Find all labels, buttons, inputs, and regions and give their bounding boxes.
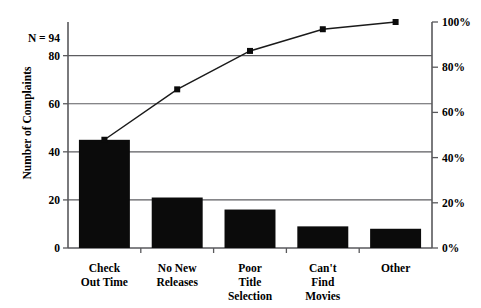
category-label-3-line-2: Movies [305, 290, 341, 302]
category-label-1-line-1: Releases [156, 276, 198, 288]
category-label-2-line-1: Title [239, 276, 262, 288]
category-label-3-line-1: Find [311, 276, 335, 288]
category-label-2-line-0: Poor [238, 262, 262, 274]
y-tick-label-left-80: 80 [49, 50, 61, 62]
y-axis-title: Number of Complaints [21, 66, 34, 179]
bar-2 [225, 210, 276, 248]
y-tick-label-right-0: 0% [442, 242, 459, 254]
y-tick-label-left-60: 60 [49, 98, 61, 110]
cumulative-marker-0 [101, 137, 107, 143]
bar-0 [79, 140, 130, 248]
y-tick-label-left-0: 0 [54, 242, 60, 254]
y-tick-label-left-20: 20 [49, 194, 61, 206]
chart-canvas: 0204060800%20%40%60%80%100%CheckOut Time… [0, 0, 481, 308]
category-label-0-line-0: Check [89, 262, 121, 274]
category-label-4-line-0: Other [381, 262, 410, 274]
sample-size-annotation: N = 94 [28, 32, 60, 44]
cumulative-marker-2 [247, 48, 253, 54]
cumulative-marker-4 [393, 19, 399, 25]
bar-1 [152, 198, 203, 248]
bar-4 [370, 229, 421, 248]
cumulative-marker-3 [320, 26, 326, 32]
y-tick-label-right-80: 80% [442, 61, 465, 73]
category-label-2-line-2: Selection [228, 290, 273, 302]
y-tick-label-right-60: 60% [442, 106, 465, 118]
bar-3 [297, 226, 348, 248]
y-tick-label-right-100: 100% [442, 16, 471, 28]
y-tick-label-right-20: 20% [442, 197, 465, 209]
category-label-3-line-0: Can't [309, 262, 337, 274]
cumulative-line [104, 22, 395, 140]
category-label-0-line-1: Out Time [81, 276, 128, 288]
y-tick-label-left-40: 40 [49, 146, 61, 158]
cumulative-marker-1 [174, 86, 180, 92]
y-tick-label-right-40: 40% [442, 152, 465, 164]
category-label-1-line-0: No New [158, 262, 197, 274]
pareto-chart: 0204060800%20%40%60%80%100%CheckOut Time… [0, 0, 481, 308]
